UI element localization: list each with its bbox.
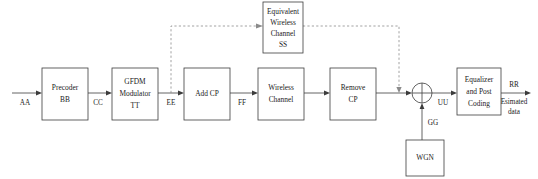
arrowhead-into-precoder	[36, 91, 42, 96]
signal-label-modulator-out: EE	[167, 99, 176, 107]
arrowhead-output	[525, 91, 531, 96]
block-gfdm-modulator[interactable]: GFDM Modulator TT	[112, 68, 158, 120]
arrowhead-into-wirelesschannel	[252, 91, 258, 96]
summing-node[interactable]	[412, 83, 432, 103]
block-wgn-label: WGN	[416, 153, 434, 162]
block-equivalent-wireless-channel-label-line1: Equivalent	[267, 7, 300, 16]
signal-label-input: AA	[20, 99, 31, 107]
output-caption: Esimated data	[501, 98, 528, 116]
block-equivalent-wireless-channel-label-line2: Wireless	[270, 18, 296, 27]
block-equivalent-wireless-channel-label-line4: SS	[279, 40, 287, 49]
block-gfdm-modulator-label-line1: GFDM	[124, 77, 146, 86]
block-equivalent-wireless-channel[interactable]: Equivalent Wireless Channel SS	[263, 2, 303, 53]
signal-label-precoder-out: CC	[93, 99, 103, 107]
block-gfdm-modulator-label-line2: Modulator	[119, 89, 151, 98]
output-caption-line2: data	[508, 108, 521, 116]
block-equalizer[interactable]: Equalizer and Post Coding	[457, 68, 501, 115]
block-precoder-label-line2: BB	[60, 95, 70, 104]
arrowhead-equivalent-channel-merge	[396, 87, 401, 93]
block-remove-cp[interactable]: Remove CP	[330, 68, 376, 120]
arrowhead-into-addcp	[178, 91, 184, 96]
block-wireless-channel-label-line2: Channel	[269, 95, 294, 104]
block-wireless-channel[interactable]: Wireless Channel	[258, 68, 304, 120]
block-add-cp-label: Add CP	[195, 89, 219, 98]
signal-label-equalizer-out: RR	[509, 81, 519, 89]
block-precoder[interactable]: Precoder BB	[42, 68, 88, 120]
block-precoder-label-line1: Precoder	[52, 83, 79, 92]
arrowhead-noise-into-adder	[420, 103, 425, 109]
block-wgn[interactable]: WGN	[406, 140, 444, 176]
arrowhead-into-adder	[406, 91, 412, 96]
signal-label-addcp-out: FF	[238, 99, 246, 107]
arrowhead-into-modulator	[106, 91, 112, 96]
block-gfdm-modulator-label-line3: TT	[130, 101, 140, 110]
signal-label-noise: GG	[428, 119, 438, 127]
block-wireless-channel-label-line1: Wireless	[268, 83, 294, 92]
block-add-cp[interactable]: Add CP	[184, 68, 230, 120]
block-remove-cp-label-line2: CP	[348, 95, 357, 104]
block-remove-cp-label-line1: Remove	[341, 83, 366, 92]
diagram-svg: Precoder BB GFDM Modulator TT Add CP Wir…	[0, 0, 538, 179]
arrowhead-into-removecp	[324, 91, 330, 96]
arrowhead-into-equivalent-channel	[256, 23, 263, 28]
arrowhead-into-equalizer	[451, 91, 457, 96]
block-equalizer-label-line1: Equalizer	[465, 75, 494, 84]
output-caption-line1: Esimated	[501, 98, 528, 106]
block-equivalent-wireless-channel-label-line3: Channel	[271, 29, 296, 38]
block-diagram-canvas: Precoder BB GFDM Modulator TT Add CP Wir…	[0, 0, 538, 179]
signal-label-sum-out: UU	[438, 99, 449, 107]
block-equalizer-label-line3: Coding	[468, 99, 490, 108]
block-equalizer-label-line2: and Post	[466, 87, 492, 96]
